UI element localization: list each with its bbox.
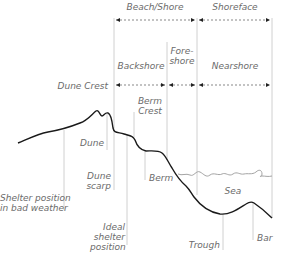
beach-profile-diagram: Beach/Shore Shoreface Backshore Fore- sh… xyxy=(0,0,281,260)
bar-label: Bar xyxy=(257,233,272,243)
shelter-bad-weather-label-line2: in bad weather xyxy=(0,203,62,213)
beach-profile-svg xyxy=(0,0,281,260)
dune-label: Dune xyxy=(70,138,104,148)
trough-label: Trough xyxy=(185,240,220,250)
ideal-shelter-label-line1: Ideal xyxy=(90,222,125,232)
dune-scarp-label-line1: Dune xyxy=(80,171,111,181)
shoreface-label: Shoreface xyxy=(205,2,265,12)
berm-crest-label-line1: Berm xyxy=(135,96,165,106)
foreshore-label-line1: Fore- xyxy=(167,46,197,56)
foreshore-label-line2: shore xyxy=(167,56,197,66)
beach-shore-label: Beach/Shore xyxy=(120,2,190,12)
sea-label: Sea xyxy=(218,186,248,196)
sea-surface-line xyxy=(178,170,272,176)
ideal-shelter-label-line2: shelter xyxy=(90,232,125,242)
backshore-label: Backshore xyxy=(115,61,167,71)
shelter-bad-weather-label-line1: Shelter position xyxy=(0,193,62,203)
dune-scarp-label-line2: scarp xyxy=(80,181,111,191)
dune-crest-label: Dune Crest xyxy=(40,81,108,91)
nearshore-label: Nearshore xyxy=(200,61,270,71)
berm-label: Berm xyxy=(149,173,173,183)
berm-crest-label-line2: Crest xyxy=(135,106,165,116)
ideal-shelter-label-line3: position xyxy=(90,242,125,252)
